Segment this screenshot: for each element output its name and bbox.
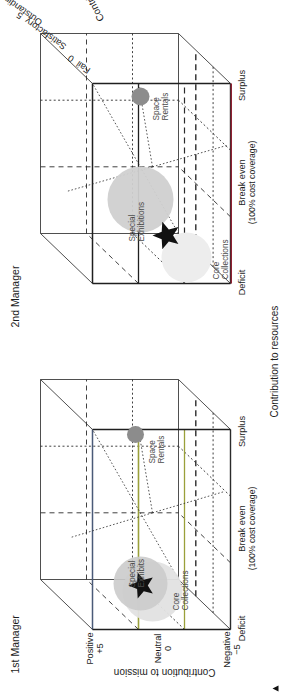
bubble-label-core-line2: Collections bbox=[180, 570, 189, 610]
bubble-label-space-rentals: Space Rentals bbox=[148, 435, 166, 463]
panel-1st-manager: 1st Manager bbox=[0, 357, 300, 687]
bubble-label-core-collections: Core Collections bbox=[172, 570, 190, 610]
bubble-label-special-line1: Special bbox=[127, 214, 136, 241]
bubble-label-special-exhibitions: Special Exhibitions bbox=[128, 201, 146, 241]
bubble-space-rentals bbox=[131, 87, 149, 105]
bubble-label-core-line1: Core bbox=[211, 261, 220, 279]
bubble-label-special-line2: Exhibits bbox=[136, 558, 145, 587]
xtick-break-even: Break even (100% cost coverage) bbox=[236, 485, 256, 571]
bubble-space-rentals bbox=[127, 426, 144, 443]
bubble-label-rentals-line2: Rentals bbox=[160, 92, 169, 120]
xtick-deficit: Deficit bbox=[236, 607, 246, 649]
bubble-label-core-line1: Core bbox=[171, 592, 180, 610]
xtick-surplus: Surplus bbox=[236, 61, 246, 109]
rotated-figure-canvas: 1st Manager bbox=[0, 0, 300, 693]
bubble-label-rentals-line2: Rentals bbox=[156, 435, 165, 463]
ytick-neutral: Neutral 0 bbox=[152, 631, 172, 665]
xtick-break-even: Break even (100% cost coverage) bbox=[236, 139, 256, 225]
bubble-label-core-collections: Core Collections bbox=[212, 239, 230, 279]
x-axis-title-shared: Contribution to resources bbox=[268, 305, 279, 417]
bubble-label-rentals-line1: Space bbox=[151, 97, 160, 120]
ytick-positive: Positive +5 bbox=[84, 631, 104, 665]
corner-arrow-icon bbox=[272, 685, 278, 691]
panel-2nd-manager: 2nd Manager bbox=[0, 11, 300, 341]
xtick-surplus: Surplus bbox=[236, 407, 246, 455]
bubble-label-rentals-line1: Space bbox=[147, 440, 156, 463]
xtick-deficit: Deficit bbox=[236, 261, 246, 303]
bubble-label-space-rentals: Space Rentals bbox=[152, 92, 170, 120]
y-axis-title: Contribution to mission bbox=[113, 666, 215, 677]
bubble-label-special-exhibits: Special Exhibits bbox=[128, 558, 146, 587]
bubble-label-special-line2: Exhibitions bbox=[136, 201, 145, 241]
bubble-label-core-line2: Collections bbox=[220, 239, 229, 279]
figure-page: 1st Manager bbox=[0, 0, 300, 693]
bubble-label-special-line1: Special bbox=[127, 560, 136, 587]
figure-body: 1st Manager bbox=[0, 0, 300, 693]
